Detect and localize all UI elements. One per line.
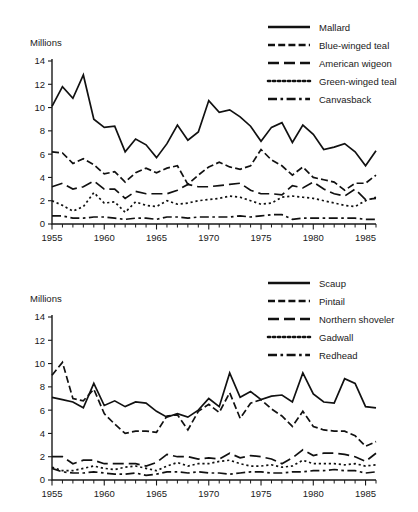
legend-label-green-winged-teal: Green-winged teal xyxy=(319,76,397,87)
legend-label-american-wigeon: American wigeon xyxy=(319,58,392,69)
y-tick-label: 8 xyxy=(40,381,45,392)
x-tick-label: 1960 xyxy=(94,232,115,243)
legend-label-northern-shoveler: Northern shoveler xyxy=(319,314,395,325)
y-tick-label: 12 xyxy=(34,335,45,346)
series-line-scaup xyxy=(52,373,376,417)
x-tick-label: 1980 xyxy=(303,488,324,499)
x-tick-label: 1955 xyxy=(41,488,62,499)
legend-label-redhead: Redhead xyxy=(319,350,358,361)
x-tick-label: 1975 xyxy=(250,488,271,499)
legend-label-canvasback: Canvasback xyxy=(319,94,372,105)
series-line-american-wigeon xyxy=(52,181,376,200)
y-axis-label: Millions xyxy=(30,37,62,48)
series-line-blue-winged-teal xyxy=(52,149,376,190)
y-tick-label: 10 xyxy=(34,102,45,113)
x-tick-label: 1965 xyxy=(146,488,167,499)
legend-label-blue-winged-teal: Blue-winged teal xyxy=(319,40,389,51)
y-tick-label: 0 xyxy=(40,474,45,485)
y-tick-label: 2 xyxy=(40,451,45,462)
series-line-redhead xyxy=(52,468,376,475)
legend-label-gadwall: Gadwall xyxy=(319,332,353,343)
y-tick-label: 0 xyxy=(40,218,45,229)
y-tick-label: 4 xyxy=(40,428,45,439)
x-tick-label: 1960 xyxy=(94,488,115,499)
x-tick-label: 1985 xyxy=(355,488,376,499)
series-line-pintail xyxy=(52,362,376,446)
y-tick-label: 8 xyxy=(40,125,45,136)
y-tick-label: 6 xyxy=(40,149,45,160)
x-tick-label: 1975 xyxy=(250,232,271,243)
y-tick-label: 6 xyxy=(40,405,45,416)
x-tick-label: 1985 xyxy=(355,232,376,243)
y-axis-label: Millions xyxy=(30,293,62,304)
legend-label-scaup: Scaup xyxy=(319,278,346,289)
x-tick-label: 1965 xyxy=(146,232,167,243)
legend-label-pintail: Pintail xyxy=(319,296,345,307)
series-line-green-winged-teal xyxy=(52,193,376,213)
duck-population-chart-bottom: Millions02468101214195519601965197019751… xyxy=(0,256,418,512)
x-tick-label: 1970 xyxy=(198,488,219,499)
y-tick-label: 2 xyxy=(40,195,45,206)
y-tick-label: 12 xyxy=(34,79,45,90)
series-line-mallard xyxy=(52,75,376,166)
x-tick-label: 1970 xyxy=(198,232,219,243)
duck-population-chart-top: Millions02468101214195519601965197019751… xyxy=(0,0,418,256)
series-line-canvasback xyxy=(52,215,376,220)
legend-label-mallard: Mallard xyxy=(319,22,350,33)
y-tick-label: 14 xyxy=(34,311,45,322)
x-tick-label: 1955 xyxy=(41,232,62,243)
chart-svg-bottom: Millions02468101214195519601965197019751… xyxy=(0,256,418,512)
y-tick-label: 14 xyxy=(34,55,45,66)
x-tick-label: 1980 xyxy=(303,232,324,243)
y-tick-label: 10 xyxy=(34,358,45,369)
y-tick-label: 4 xyxy=(40,172,45,183)
series-line-northern-shoveler xyxy=(52,450,376,466)
chart-svg-top: Millions02468101214195519601965197019751… xyxy=(0,0,418,256)
